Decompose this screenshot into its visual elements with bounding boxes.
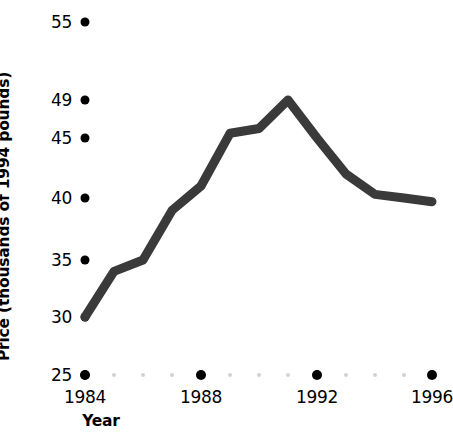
- y-tick-dot: [81, 256, 90, 265]
- x-tick-dot-minor: [228, 373, 232, 377]
- x-tick-dot-minor: [112, 373, 116, 377]
- y-tick-dot: [81, 134, 90, 143]
- y-tick-label: 40: [26, 190, 72, 207]
- y-tick-label: 55: [26, 14, 72, 31]
- x-tick-dot-minor: [344, 373, 348, 377]
- x-tick-dot-minor: [402, 373, 406, 377]
- x-axis-title: Year: [82, 412, 120, 430]
- y-tick-label: 30: [26, 309, 72, 326]
- x-tick-label: 1996: [411, 389, 453, 406]
- x-tick-dot-major: [312, 370, 322, 380]
- price-data-line: [85, 100, 432, 317]
- y-tick-label: 45: [26, 130, 72, 147]
- x-tick-dot-major: [80, 370, 90, 380]
- x-tick-dot-minor: [141, 373, 145, 377]
- x-tick-label: 1988: [180, 389, 222, 406]
- x-tick-dot-major: [427, 370, 437, 380]
- x-tick-dot-minor: [286, 373, 290, 377]
- x-tick-dot-major: [196, 370, 206, 380]
- y-axis-title: Price (thousands of 1994 pounds): [0, 0, 26, 433]
- y-tick-label: 49: [26, 92, 72, 109]
- y-tick-dot: [81, 313, 90, 322]
- x-tick-dot-minor: [373, 373, 377, 377]
- x-tick-label: 1992: [296, 389, 338, 406]
- y-tick-label: 35: [26, 252, 72, 269]
- y-tick-dot: [81, 96, 90, 105]
- x-tick-label: 1984: [64, 389, 106, 406]
- y-tick-dot: [81, 194, 90, 203]
- x-tick-dot-minor: [170, 373, 174, 377]
- price-line-chart: Price (thousands of 1994 pounds) 5549454…: [0, 0, 453, 433]
- y-tick-label: 25: [26, 367, 72, 384]
- x-tick-dot-minor: [257, 373, 261, 377]
- y-tick-dot: [81, 18, 90, 27]
